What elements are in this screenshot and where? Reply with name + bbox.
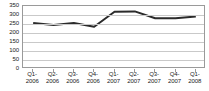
x-tick-label-line: Q4- (87, 71, 100, 78)
gridline (23, 42, 204, 43)
x-tick-label-line: Q1- (188, 71, 201, 78)
y-axis: 050100150200250300350 (0, 0, 21, 91)
x-axis: Q1-2006Q2-2006Q3-2006Q4-2006Q1-2007Q2-20… (22, 69, 205, 91)
plot-area (22, 5, 205, 68)
x-tick-label-line: Q1- (26, 71, 39, 78)
y-tick-label: 350 (9, 2, 19, 8)
x-tick-label-line: 2007 (107, 78, 120, 85)
x-tick-label: Q1-2007 (107, 71, 120, 85)
x-tick-label-line: 2006 (46, 78, 59, 85)
x-tick-label: Q4-2006 (87, 71, 100, 85)
x-tick-label: Q1-2008 (188, 71, 201, 85)
x-tick-label-line: Q4- (168, 71, 181, 78)
x-tick-label-line: 2006 (66, 78, 79, 85)
x-tick-label: Q2-2006 (46, 71, 59, 85)
y-tick-label: 100 (9, 47, 19, 53)
y-tick-label: 50 (13, 56, 19, 62)
line-chart: 050100150200250300350 Q1-2006Q2-2006Q3-2… (0, 0, 209, 91)
gridline (23, 33, 204, 34)
x-tick-label: Q2-2007 (127, 71, 140, 85)
y-tick-label: 0 (16, 65, 19, 71)
x-tick-label-line: 2007 (168, 78, 181, 85)
x-tick-label: Q3-2006 (66, 71, 79, 85)
x-tick-label-line: 2007 (127, 78, 140, 85)
y-tick-label: 300 (9, 11, 19, 17)
x-tick-label-line: Q3- (66, 71, 79, 78)
gridline (23, 24, 204, 25)
gridline (23, 60, 204, 61)
y-tick-label: 250 (9, 20, 19, 26)
x-tick-label: Q3-2007 (148, 71, 161, 85)
x-tick-label-line: 2006 (87, 78, 100, 85)
gridline (23, 15, 204, 16)
x-tick-label-line: Q3- (148, 71, 161, 78)
gridline (23, 51, 204, 52)
x-tick-label-line: 2006 (26, 78, 39, 85)
x-tick-label-line: 2007 (148, 78, 161, 85)
x-tick-label: Q1-2006 (26, 71, 39, 85)
y-tick-label: 150 (9, 38, 19, 44)
x-tick-label-line: Q2- (46, 71, 59, 78)
x-tick-label-line: Q2- (127, 71, 140, 78)
x-tick-label-line: Q1- (107, 71, 120, 78)
x-tick-label-line: 2008 (188, 78, 201, 85)
x-tick-label: Q4-2007 (168, 71, 181, 85)
y-tick-label: 200 (9, 29, 19, 35)
